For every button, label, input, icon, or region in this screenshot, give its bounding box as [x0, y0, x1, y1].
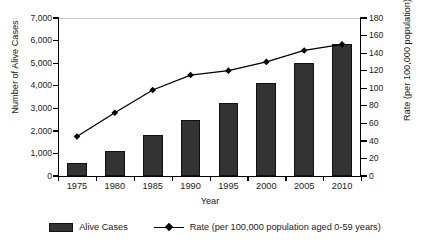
y-axis-left-tick-label: 3,000 — [30, 104, 52, 113]
y-axis-right-tick-label: 140 — [369, 49, 383, 58]
y-axis-left-tick-label: 5,000 — [30, 59, 52, 68]
bar — [105, 151, 125, 176]
y-axis-right-tick — [361, 70, 367, 71]
bar — [332, 44, 352, 176]
y-axis-left-tick-label: 6,000 — [30, 36, 52, 45]
bar — [219, 103, 239, 176]
y-axis-right-line — [360, 17, 361, 177]
y-axis-right-tick — [361, 88, 367, 89]
y-axis-left-title: Number of Alive Cases — [10, 1, 20, 133]
y-axis-left-tick — [53, 108, 59, 109]
plot-area — [58, 18, 361, 176]
bar — [294, 63, 314, 176]
chart-legend: Alive Cases Rate (per 100,000 population… — [0, 222, 430, 232]
y-axis-left-tick — [53, 40, 59, 41]
y-axis-left-tick-label: 1,000 — [30, 149, 52, 158]
bar-swatch-icon — [49, 223, 73, 232]
legend-label-rate: Rate (per 100,000 population aged 0-59 y… — [190, 222, 381, 232]
x-axis-tick-label: 2010 — [320, 181, 364, 191]
y-axis-left-tick — [53, 130, 59, 131]
y-axis-left-tick-label: 0 — [47, 172, 52, 181]
chart-container: 01,0002,0003,0004,0005,0006,0007,000 020… — [0, 0, 430, 248]
y-axis-left-tick-label: 2,000 — [30, 127, 52, 136]
bar — [256, 83, 276, 176]
legend-item-rate[interactable]: Rate (per 100,000 population aged 0-59 y… — [154, 222, 381, 232]
y-axis-right-tick-label: 0 — [369, 172, 374, 181]
y-axis-right-tick — [361, 17, 367, 18]
y-axis-right-tick-label: 100 — [369, 84, 383, 93]
y-axis-right-tick — [361, 140, 367, 141]
bar — [67, 163, 87, 176]
y-axis-right-tick-label: 40 — [369, 137, 379, 146]
y-axis-right-title: Rate (per 100,000 population) — [402, 0, 412, 126]
y-axis-right-tick-label: 20 — [369, 154, 379, 163]
bar — [143, 135, 163, 176]
y-axis-right-tick — [361, 123, 367, 124]
bar — [181, 120, 201, 176]
y-axis-right-tick-label: 160 — [369, 31, 383, 40]
legend-item-alive-cases[interactable]: Alive Cases — [49, 222, 128, 232]
y-axis-left-tick-label: 7,000 — [30, 14, 52, 23]
x-axis-title: Year — [58, 196, 362, 206]
y-axis-right-tick — [361, 158, 367, 159]
y-axis-right-tick-label: 80 — [369, 101, 379, 110]
y-axis-left-tick — [53, 85, 59, 86]
y-axis-right-tick — [361, 35, 367, 36]
y-axis-right-tick-label: 60 — [369, 119, 379, 128]
y-axis-right-tick — [361, 53, 367, 54]
chart-title — [0, 0, 430, 10]
y-axis-left-tick — [53, 17, 59, 18]
y-axis-right-tick-label: 180 — [369, 14, 383, 23]
y-axis-left-tick — [53, 63, 59, 64]
line-diamond-swatch-icon — [154, 223, 184, 232]
y-axis-right-tick — [361, 105, 367, 106]
legend-label-alive-cases: Alive Cases — [79, 222, 128, 232]
y-axis-left-tick-label: 4,000 — [30, 81, 52, 90]
y-axis-left-tick — [53, 153, 59, 154]
y-axis-right-tick-label: 120 — [369, 66, 383, 75]
